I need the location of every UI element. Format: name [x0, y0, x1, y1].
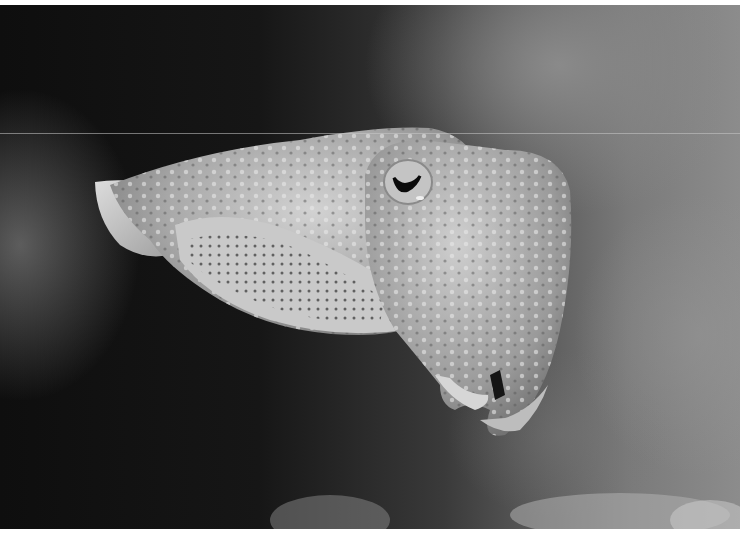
cuttlefish-illustration: [0, 5, 740, 529]
eye: [384, 160, 432, 204]
cuttlefish-photo: [0, 5, 740, 529]
horizontal-scan-line: [0, 133, 740, 134]
